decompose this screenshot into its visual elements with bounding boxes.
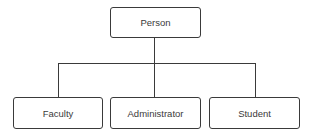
connector-faculty-vertical	[58, 63, 59, 98]
connector-student-vertical	[255, 63, 256, 98]
node-faculty-label: Faculty	[43, 108, 74, 119]
node-student: Student	[209, 97, 300, 129]
connector-administrator-vertical	[154, 63, 155, 98]
node-person: Person	[110, 7, 201, 38]
node-administrator: Administrator	[110, 97, 201, 129]
connector-root-vertical	[154, 37, 155, 64]
node-faculty: Faculty	[13, 97, 103, 129]
hierarchy-diagram: Person Faculty Administrator Student	[0, 0, 318, 138]
connector-horizontal-bar	[58, 63, 256, 64]
node-person-label: Person	[140, 17, 170, 28]
node-administrator-label: Administrator	[128, 108, 184, 119]
node-student-label: Student	[238, 108, 271, 119]
